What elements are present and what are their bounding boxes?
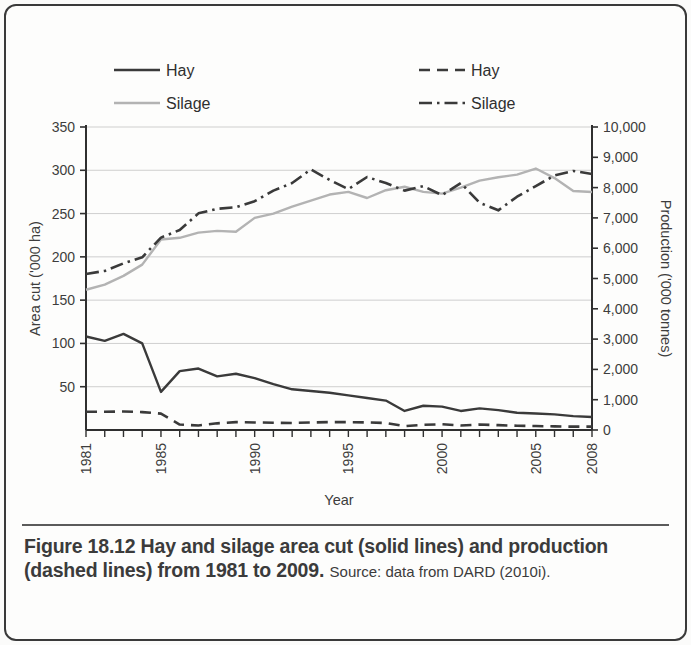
- y-tick-label-right: 1,000: [603, 392, 638, 408]
- figure-page: 50100150200250300350Area cut ('000 ha)01…: [0, 0, 691, 645]
- legend-label-silage: Silage: [166, 95, 211, 112]
- chart-figure: 50100150200250300350Area cut ('000 ha)01…: [14, 10, 677, 520]
- y-tick-label-left: 100: [52, 335, 76, 351]
- series-line-hay-left: [86, 334, 592, 417]
- caption-divider: [22, 524, 669, 526]
- y-tick-label-right: 0: [603, 422, 611, 438]
- y-tick-label-right: 4,000: [603, 301, 638, 317]
- caption-source-text: Source: data from DARD (2010i).: [330, 563, 551, 580]
- series-line-silage-right: [86, 169, 592, 274]
- y-tick-label-left: 300: [52, 162, 76, 178]
- y-tick-label-right: 5,000: [603, 271, 638, 287]
- figure-caption: Figure 18.12 Hay and silage area cut (so…: [24, 534, 664, 584]
- x-axis-title: Year: [324, 492, 353, 508]
- x-tick-label: 1985: [153, 443, 169, 474]
- y-tick-label-right: 3,000: [603, 331, 638, 347]
- x-tick-label: 2000: [434, 443, 450, 474]
- x-tick-label: 1995: [340, 443, 356, 474]
- y-tick-label-left: 150: [52, 292, 76, 308]
- x-tick-label: 1990: [247, 443, 263, 474]
- y-tick-label-right: 7,000: [603, 210, 638, 226]
- y-axis-title-left: Area cut ('000 ha): [27, 221, 43, 336]
- y-tick-label-right: 8,000: [603, 180, 638, 196]
- legend-label-silage: Silage: [471, 95, 516, 112]
- x-tick-label: 2008: [584, 443, 600, 474]
- line-chart: 50100150200250300350Area cut ('000 ha)01…: [14, 10, 677, 520]
- x-tick-label: 2005: [528, 443, 544, 474]
- y-tick-label-left: 350: [52, 119, 76, 135]
- x-tick-label: 1981: [78, 443, 94, 474]
- y-tick-label-right: 10,000: [603, 119, 646, 135]
- y-tick-label-right: 9,000: [603, 149, 638, 165]
- y-tick-label-right: 6,000: [603, 240, 638, 256]
- y-axis-title-right: Production ('000 tonnes): [658, 200, 674, 358]
- series-line-silage-left: [86, 169, 592, 290]
- y-tick-label-left: 200: [52, 249, 76, 265]
- legend-label-hay: Hay: [471, 62, 499, 79]
- y-tick-label-left: 250: [52, 206, 76, 222]
- legend-label-hay: Hay: [166, 62, 194, 79]
- y-tick-label-left: 50: [59, 379, 75, 395]
- series-line-hay-right: [86, 412, 592, 427]
- y-tick-label-right: 2,000: [603, 361, 638, 377]
